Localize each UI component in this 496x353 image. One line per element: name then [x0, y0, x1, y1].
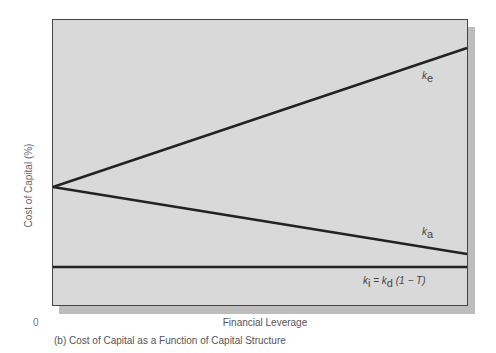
ki-label: ki = kd (1 − T) [363, 275, 426, 289]
y-axis-label: Cost of Capital (%) [23, 126, 34, 246]
ke-label: ke [422, 70, 433, 84]
x-origin-label: 0 [33, 317, 39, 328]
chart-lines [0, 0, 496, 353]
ka-label: ka [422, 226, 433, 240]
x-axis-label: Financial Leverage [160, 317, 370, 328]
ka-line [53, 187, 467, 254]
ke-line [53, 48, 467, 187]
figure-caption: (b) Cost of Capital as a Function of Cap… [54, 335, 286, 346]
